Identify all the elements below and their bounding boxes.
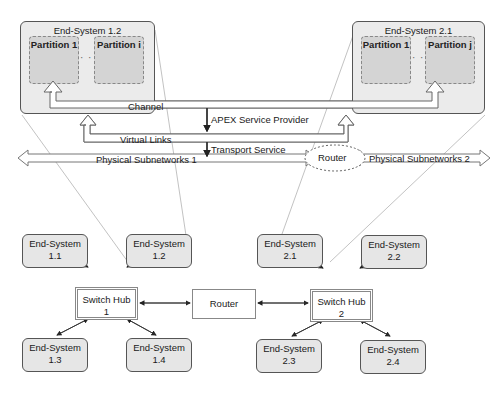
end-system-label: End-System [361, 344, 425, 356]
partition-label: Partition 1 [362, 39, 410, 50]
end-system-1-3[interactable]: End-System 1.3 [22, 338, 88, 372]
apex-service-provider-label: APEX Service Provider [211, 115, 309, 125]
transport-service-label: Transport Service [211, 145, 286, 155]
end-system-2-2[interactable]: End-System 2.2 [361, 235, 427, 269]
partition-j: Partition j [425, 36, 475, 84]
end-system-label: End-System [127, 238, 191, 250]
end-system-id: 1.4 [127, 354, 191, 366]
end-system-id: 2.3 [257, 355, 321, 367]
end-system-2-3[interactable]: End-System 2.3 [256, 339, 322, 373]
end-system-2-1[interactable]: End-System 2.1 [257, 234, 323, 268]
end-system-2-1-detail: End-System 2.1 Partition 1 · · · Partiti… [352, 21, 485, 114]
end-system-id: 2.2 [362, 251, 426, 263]
end-system-label: End-System [258, 238, 322, 250]
channel-label: Channel [128, 102, 163, 112]
end-system-id: 1.1 [23, 250, 87, 262]
end-system-2-4[interactable]: End-System 2.4 [360, 340, 426, 374]
end-system-1-2[interactable]: End-System 1.2 [126, 234, 192, 268]
end-system-label: End-System [362, 239, 426, 251]
end-system-1-4[interactable]: End-System 1.4 [126, 338, 192, 372]
physical-subnetworks-1-label: Physical Subnetworks 1 [96, 155, 197, 165]
switch-hub-1[interactable]: Switch Hub 1 [75, 287, 138, 320]
router-box[interactable]: Router [192, 289, 256, 319]
physical-subnetworks-2-label: Physical Subnetworks 2 [369, 154, 470, 164]
partition-1-left: Partition 1 [29, 36, 79, 84]
end-system-label: End-System [23, 342, 87, 354]
end-system-id: 1.2 [127, 250, 191, 262]
partition-label: Partition j [426, 39, 474, 50]
hub-label: Switch Hub [78, 294, 135, 306]
router-label-top: Router [318, 153, 347, 163]
end-system-label: End-System [257, 343, 321, 355]
end-system-1-2-title: End-System 1.2 [21, 25, 154, 36]
partition-label: Partition i [95, 39, 143, 50]
partition-label: Partition 1 [30, 39, 78, 50]
end-system-id: 2.4 [361, 356, 425, 368]
end-system-2-1-title: End-System 2.1 [353, 25, 484, 36]
hub-id: 2 [313, 308, 370, 320]
end-system-label: End-System [23, 238, 87, 250]
switch-hub-2[interactable]: Switch Hub 2 [310, 289, 373, 322]
end-system-1-1[interactable]: End-System 1.1 [22, 234, 88, 268]
partition-1-right: Partition 1 [361, 36, 411, 84]
end-system-label: End-System [127, 342, 191, 354]
hub-label: Switch Hub [313, 296, 370, 308]
hub-id: 1 [78, 306, 135, 318]
end-system-id: 1.3 [23, 354, 87, 366]
end-system-id: 2.1 [258, 250, 322, 262]
partition-i: Partition i [94, 36, 144, 84]
virtual-links-label: Virtual Links [120, 135, 172, 145]
